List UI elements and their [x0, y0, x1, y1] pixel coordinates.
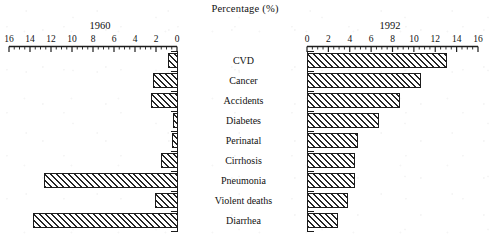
tick-label-16: 16	[0, 33, 18, 45]
bar-row	[307, 171, 483, 191]
category-axis-spine	[307, 51, 308, 231]
bar-row	[0, 111, 178, 131]
category-label-diabetes: Diabetes	[186, 111, 301, 131]
category-axis-spine	[177, 51, 178, 231]
tick-label-16: 16	[469, 33, 487, 45]
category-label-cancer: Cancer	[186, 71, 301, 91]
bar-1992-perinatal	[307, 133, 358, 148]
category-label-cvd: CVD	[186, 51, 301, 71]
bar-1992-cirrhosis	[307, 153, 355, 168]
chart-figure: Percentage (%) 1960 1992 1614121086420 0…	[0, 0, 490, 239]
bar-1960-diarrhea	[33, 213, 178, 228]
category-label-accidents: Accidents	[186, 91, 301, 111]
bar-row	[0, 171, 178, 191]
bar-row	[0, 131, 178, 151]
bar-row	[307, 51, 483, 71]
tick-label-14: 14	[448, 33, 466, 45]
bar-1960-accidents	[151, 93, 178, 108]
category-label-violent-deaths: Violent deaths	[186, 191, 301, 211]
tick-label-0: 0	[168, 33, 186, 45]
category-label-diarrhea: Diarrhea	[186, 211, 301, 231]
panel-year-label-1960: 1960	[60, 20, 140, 31]
bar-row	[307, 131, 483, 151]
bars-panel-1960	[0, 51, 178, 231]
bar-row	[0, 91, 178, 111]
bar-row	[307, 111, 483, 131]
bar-row	[307, 71, 483, 91]
bar-row	[307, 211, 483, 231]
tick-label-6: 6	[105, 33, 123, 45]
category-label-cirrhosis: Cirrhosis	[186, 151, 301, 171]
bar-row	[0, 151, 178, 171]
tick-label-4: 4	[341, 33, 359, 45]
tick-label-12: 12	[426, 33, 444, 45]
tick-label-10: 10	[405, 33, 423, 45]
chart-title: Percentage (%)	[0, 3, 490, 14]
bar-1992-accidents	[307, 93, 400, 108]
bar-1992-diarrhea	[307, 213, 338, 228]
bar-row	[0, 211, 178, 231]
bar-1992-violent-deaths	[307, 193, 348, 208]
bar-row	[307, 151, 483, 171]
bar-1960-violent-deaths	[155, 193, 178, 208]
bar-1960-cancer	[153, 73, 178, 88]
bar-1992-diabetes	[307, 113, 379, 128]
tick-label-14: 14	[21, 33, 39, 45]
bar-row	[307, 91, 483, 111]
bar-1960-pneumonia	[44, 173, 178, 188]
tick-label-10: 10	[63, 33, 81, 45]
category-axis-tick	[307, 231, 314, 232]
bar-row	[307, 191, 483, 211]
panel-year-label-1992: 1992	[350, 20, 430, 31]
x-axis-tick-labels-1960: 1614121086420	[0, 33, 190, 45]
tick-label-2: 2	[147, 33, 165, 45]
x-axis-tick-labels-1992: 0246810121416	[300, 33, 490, 45]
bar-1992-cvd	[307, 53, 447, 68]
category-label-pneumonia: Pneumonia	[186, 171, 301, 191]
tick-label-12: 12	[42, 33, 60, 45]
bar-row	[0, 191, 178, 211]
category-axis-tick	[171, 231, 178, 232]
bar-1992-pneumonia	[307, 173, 355, 188]
tick-label-8: 8	[84, 33, 102, 45]
tick-label-0: 0	[298, 33, 316, 45]
tick-label-2: 2	[319, 33, 337, 45]
bar-row	[0, 71, 178, 91]
bar-1960-cirrhosis	[161, 153, 178, 168]
bar-row	[0, 51, 178, 71]
bar-1992-cancer	[307, 73, 421, 88]
tick-label-6: 6	[362, 33, 380, 45]
tick-label-8: 8	[384, 33, 402, 45]
category-axis-labels: CVDCancerAccidentsDiabetesPerinatalCirrh…	[186, 51, 301, 231]
category-label-perinatal: Perinatal	[186, 131, 301, 151]
bars-panel-1992	[307, 51, 483, 231]
tick-label-4: 4	[126, 33, 144, 45]
